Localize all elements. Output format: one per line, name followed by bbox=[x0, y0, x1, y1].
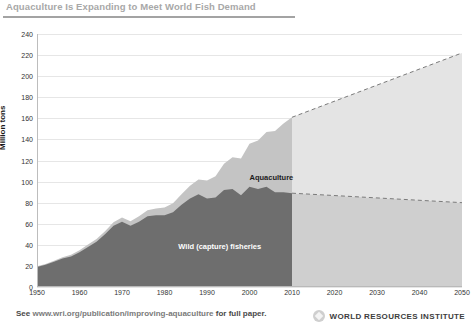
plot-area: Aquaculture Wild (capture) fisheries bbox=[37, 34, 462, 287]
x-tick-label: 2050 bbox=[454, 289, 470, 296]
historical-wild-area bbox=[37, 187, 292, 287]
projection-aquaculture-area bbox=[292, 53, 462, 203]
y-tick-label: 120 bbox=[21, 157, 33, 164]
y-tick-label: 20 bbox=[25, 262, 33, 269]
x-tick-label: 2020 bbox=[327, 289, 343, 296]
projection-wild-area bbox=[292, 193, 462, 287]
x-tick-label: 1980 bbox=[157, 289, 173, 296]
x-tick-label: 2010 bbox=[284, 289, 300, 296]
fisheries-area-chart: Million tons 020406080100120140160180200… bbox=[0, 22, 471, 307]
footer: See www.wri.org/publication/improving-aq… bbox=[0, 308, 471, 335]
y-tick-label: 220 bbox=[21, 52, 33, 59]
gridline bbox=[37, 287, 462, 288]
x-tick-label: 1970 bbox=[114, 289, 130, 296]
x-tick-label: 2030 bbox=[369, 289, 385, 296]
source-url[interactable]: www.wri.org/publication/improving-aquacu… bbox=[32, 309, 213, 318]
x-tick-label: 1960 bbox=[72, 289, 88, 296]
wri-diamond-icon bbox=[313, 310, 325, 322]
x-tick-label: 1950 bbox=[29, 289, 45, 296]
y-tick-label: 60 bbox=[25, 220, 33, 227]
y-tick-label: 180 bbox=[21, 94, 33, 101]
wri-logo: WORLD RESOURCES INSTITUTE bbox=[313, 310, 465, 322]
y-tick-label: 160 bbox=[21, 115, 33, 122]
source-prefix: See bbox=[16, 309, 30, 318]
page-title: Aquaculture Is Expanding to Meet World F… bbox=[6, 1, 256, 12]
y-tick-label: 240 bbox=[21, 31, 33, 38]
source-note: See www.wri.org/publication/improving-aq… bbox=[16, 309, 266, 318]
x-tick-label: 2000 bbox=[242, 289, 258, 296]
chart-page: Aquaculture Is Expanding to Meet World F… bbox=[0, 0, 471, 335]
y-tick-label: 40 bbox=[25, 241, 33, 248]
y-tick-label: 140 bbox=[21, 136, 33, 143]
title-divider bbox=[3, 16, 295, 18]
x-axis-tick-labels: 1950196019701980199020002010202020302040… bbox=[37, 289, 462, 303]
series-label-aquaculture: Aquaculture bbox=[250, 173, 294, 182]
wri-org-name: WORLD RESOURCES INSTITUTE bbox=[330, 312, 465, 321]
x-tick-label: 1990 bbox=[199, 289, 215, 296]
y-axis-tick-labels: 020406080100120140160180200220240 bbox=[0, 34, 33, 287]
y-tick-label: 200 bbox=[21, 73, 33, 80]
y-tick-label: 100 bbox=[21, 178, 33, 185]
x-axis-line bbox=[37, 286, 462, 287]
series-label-wild-fisheries: Wild (capture) fisheries bbox=[178, 242, 261, 251]
y-tick-label: 80 bbox=[25, 199, 33, 206]
source-suffix: for full paper. bbox=[216, 309, 267, 318]
x-tick-label: 2040 bbox=[412, 289, 428, 296]
y-axis-line bbox=[37, 34, 38, 287]
